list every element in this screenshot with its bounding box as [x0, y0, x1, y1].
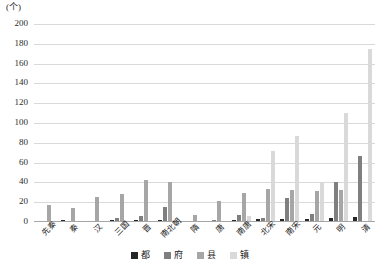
bar-group	[58, 24, 82, 222]
y-axis-tick-label: 80	[0, 137, 28, 147]
bar	[217, 201, 221, 222]
bar-group	[351, 24, 375, 222]
x-axis-category-label: 唐	[214, 222, 226, 234]
x-axis-category: 清	[351, 224, 375, 250]
legend-item[interactable]: 都	[131, 250, 150, 260]
x-axis-category: 隋	[180, 224, 204, 250]
bar	[358, 156, 362, 222]
bar	[120, 194, 124, 222]
x-axis-category-label: 汉	[92, 222, 104, 234]
bar-group	[326, 24, 350, 222]
bar-group	[107, 24, 131, 222]
legend-label: 镇	[240, 250, 249, 260]
bar-group	[83, 24, 107, 222]
y-axis-tick-label: 100	[0, 117, 28, 127]
legend-label: 都	[141, 250, 150, 260]
x-axis-category: 北宋	[253, 224, 277, 250]
legend-label: 县	[207, 250, 216, 260]
bar-groups	[34, 24, 375, 222]
bar-group	[205, 24, 229, 222]
bar-chart: (个) 020406080100120140160180200 先秦秦汉三国晋南…	[0, 0, 379, 271]
bar	[339, 190, 343, 222]
bar	[285, 198, 289, 222]
y-axis-tick-label: 60	[0, 157, 28, 167]
bar	[95, 197, 99, 222]
bar-group	[131, 24, 155, 222]
x-axis-category-label: 明	[336, 222, 348, 234]
x-axis-category: 汉	[83, 224, 107, 250]
bar-group	[229, 24, 253, 222]
bar-group	[180, 24, 204, 222]
bar	[320, 183, 324, 222]
bar	[315, 191, 319, 222]
bar	[242, 193, 246, 222]
x-axis-category-labels: 先秦秦汉三国晋南北朝隋唐南唐北宋南宋元明清	[34, 224, 375, 250]
y-axis-tick-label: 180	[0, 38, 28, 48]
legend-swatch-icon	[164, 252, 171, 259]
x-axis-category: 明	[326, 224, 350, 250]
bar	[334, 182, 338, 222]
bar	[144, 180, 148, 222]
legend-swatch-icon	[131, 252, 138, 259]
plot-area	[34, 24, 375, 222]
bar	[266, 189, 270, 222]
y-axis-tick-label: 40	[0, 176, 28, 186]
chart-legend: 都府县镇	[0, 250, 379, 260]
x-axis-category: 唐	[205, 224, 229, 250]
legend-item[interactable]: 府	[164, 250, 183, 260]
x-axis-category: 元	[302, 224, 326, 250]
x-axis-line	[34, 221, 375, 222]
legend-swatch-icon	[230, 252, 237, 259]
x-axis-category: 晋	[131, 224, 155, 250]
x-axis-category-label: 元	[311, 222, 323, 234]
bar-group	[278, 24, 302, 222]
y-axis-unit-label: (个)	[6, 2, 21, 13]
y-axis-tick-label: 160	[0, 58, 28, 68]
bar	[71, 208, 75, 222]
y-axis-tick-label: 20	[0, 196, 28, 206]
legend-item[interactable]: 镇	[230, 250, 249, 260]
bar-group	[156, 24, 180, 222]
x-axis-category-label: 秦	[68, 222, 80, 234]
y-axis-tick-label: 140	[0, 77, 28, 87]
bar	[368, 49, 372, 222]
bar-group	[302, 24, 326, 222]
bar	[168, 182, 172, 222]
y-axis-tick-label: 200	[0, 18, 28, 28]
bar	[271, 151, 275, 222]
legend-swatch-icon	[197, 252, 204, 259]
x-axis-category: 秦	[58, 224, 82, 250]
legend-item[interactable]: 县	[197, 250, 216, 260]
bar	[290, 190, 294, 222]
x-axis-category: 南唐	[229, 224, 253, 250]
legend-label: 府	[174, 250, 183, 260]
bar	[163, 207, 167, 222]
y-axis-tick-label: 120	[0, 97, 28, 107]
bar-group	[253, 24, 277, 222]
x-axis-category-label: 隋	[189, 222, 201, 234]
x-axis-category: 先秦	[34, 224, 58, 250]
bar	[295, 136, 299, 222]
bar	[344, 113, 348, 222]
x-axis-category-label: 晋	[141, 222, 153, 234]
x-axis-category: 三国	[107, 224, 131, 250]
bar-group	[34, 24, 58, 222]
x-axis-category: 南宋	[278, 224, 302, 250]
x-axis-category: 南北朝	[156, 224, 180, 250]
x-axis-category-label: 清	[360, 222, 372, 234]
y-axis-tick-label: 0	[0, 216, 28, 226]
